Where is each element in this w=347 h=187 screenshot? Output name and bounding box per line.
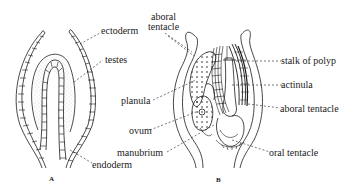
panel-a-drawing bbox=[16, 30, 103, 168]
panel-b-drawing bbox=[150, 30, 283, 168]
label-ovum: ovum bbox=[129, 126, 152, 136]
label-oral-tentacle: oral tentacle bbox=[269, 148, 318, 158]
panel-b-caption: B bbox=[216, 176, 221, 184]
panel-a-caption: A bbox=[49, 175, 54, 183]
label-testes: testes bbox=[105, 55, 127, 65]
label-actinula: actinula bbox=[281, 80, 313, 90]
label-ectoderm: ectoderm bbox=[101, 26, 138, 36]
label-endoderm: endoderm bbox=[92, 160, 132, 170]
label-stalk-of-polyp: stalk of polyp bbox=[281, 56, 336, 66]
label-aboral-tentacle-right: aboral tentacle bbox=[280, 104, 339, 114]
label-manubrium: manubrium bbox=[117, 148, 163, 158]
diagram-figure: ectoderm testes endoderm A aboral tentac… bbox=[0, 0, 347, 187]
label-aboral-top-line2: tentacle bbox=[148, 22, 179, 32]
label-planula: planula bbox=[121, 96, 150, 106]
